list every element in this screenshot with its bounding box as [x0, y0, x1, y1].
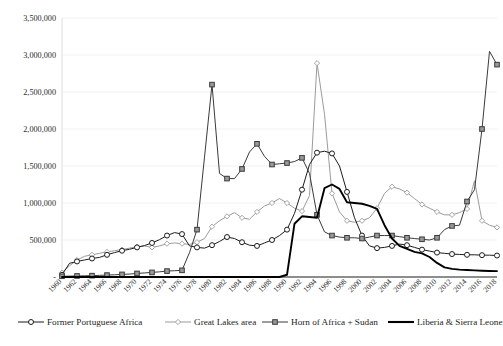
data-point-marker: [135, 271, 140, 276]
gridlines-group: [62, 18, 497, 240]
series-line: [62, 63, 497, 272]
x-tick-label: 1976: [166, 277, 183, 294]
legend-item-great-lakes-area[interactable]: Great Lakes area: [165, 317, 256, 327]
y-tick-label: 3,000,000: [23, 51, 56, 60]
data-point-marker: [270, 238, 275, 243]
data-point-marker: [329, 191, 334, 196]
x-tick-label: 1980: [196, 277, 213, 294]
data-point-marker: [240, 167, 245, 172]
data-point-marker: [465, 252, 470, 257]
data-point-marker: [255, 142, 260, 147]
data-point-marker: [495, 253, 500, 258]
x-tick-label: 1972: [136, 277, 153, 294]
series-great-lakes-area: [59, 61, 499, 276]
data-point-marker: [450, 252, 455, 257]
legend: Former Portuguese AfricaGreat Lakes area…: [18, 317, 502, 327]
data-point-marker: [315, 150, 320, 155]
x-tick-label: 1974: [151, 277, 168, 294]
series-line: [62, 151, 497, 275]
data-point-marker: [120, 248, 125, 253]
x-tick-label: 1966: [91, 277, 108, 294]
data-point-marker: [405, 235, 410, 240]
x-tick-label: 2000: [346, 277, 363, 294]
data-point-marker: [465, 199, 470, 204]
x-tick-label: 1996: [316, 277, 333, 294]
data-point-marker: [375, 246, 380, 251]
data-point-marker: [210, 82, 215, 87]
legend-label: Liberia & Sierra Leone: [417, 317, 502, 327]
legend-item-horn-of-africa-sudan[interactable]: Horn of Africa + Sudan: [262, 317, 378, 327]
data-point-marker: [105, 252, 110, 257]
data-point-marker: [285, 161, 290, 166]
y-tick-label: 1,500,000: [23, 162, 56, 171]
x-tick-label: 1982: [211, 277, 228, 294]
chart-container: 3,500,0003,000,0002,500,0002,000,0001,50…: [0, 0, 503, 346]
data-point-marker: [405, 243, 410, 248]
data-point-marker: [299, 209, 304, 214]
data-point-marker: [150, 270, 155, 275]
y-tick-label: 2,500,000: [23, 88, 56, 97]
x-tick-label: 2016: [466, 277, 483, 294]
x-tick-label: 2002: [361, 277, 378, 294]
y-tick-label: 3,500,000: [23, 14, 56, 23]
data-point-marker: [224, 214, 229, 219]
x-tick-label: 2012: [436, 277, 453, 294]
series-lines-group: [59, 51, 499, 278]
x-tick-label: 1992: [286, 277, 303, 294]
series-horn-of-africa-sudan: [60, 51, 500, 278]
legend-item-former-portuguese-africa[interactable]: Former Portuguese Africa: [18, 317, 142, 327]
data-point-marker: [479, 218, 484, 223]
legend-label: Great Lakes area: [194, 317, 256, 327]
data-point-marker: [165, 269, 170, 274]
series-line: [62, 51, 497, 276]
x-tick-label: 1984: [226, 277, 243, 294]
legend-item-liberia-sierra-leone[interactable]: Liberia & Sierra Leone: [388, 317, 502, 327]
x-tick-label: 2018: [481, 277, 498, 294]
y-axis-tick-labels: 3,500,0003,000,0002,500,0002,000,0001,50…: [23, 14, 56, 282]
y-tick-label: 1,000,000: [23, 199, 56, 208]
data-point-marker: [150, 240, 155, 245]
data-point-marker: [494, 225, 499, 230]
x-tick-label: 2006: [391, 277, 408, 294]
legend-label: Horn of Africa + Sudan: [291, 317, 378, 327]
data-point-marker: [179, 241, 184, 246]
x-tick-label: 1960: [46, 277, 63, 294]
data-point-marker: [300, 156, 305, 161]
data-point-marker: [420, 237, 425, 242]
data-point-marker: [180, 268, 185, 273]
data-point-marker: [195, 245, 200, 250]
x-tick-label: 2014: [451, 277, 468, 294]
x-tick-label: 1964: [76, 277, 93, 294]
data-point-marker: [330, 233, 335, 238]
data-point-marker: [375, 233, 380, 238]
data-point-marker: [164, 241, 169, 246]
x-tick-label: 2010: [421, 277, 438, 294]
data-point-marker: [360, 236, 365, 241]
data-point-marker: [135, 245, 140, 250]
data-point-marker: [314, 61, 319, 66]
data-point-marker: [359, 218, 364, 223]
data-point-marker: [29, 320, 34, 325]
x-tick-label: 1968: [106, 277, 123, 294]
x-tick-label: 1988: [256, 277, 273, 294]
data-point-marker: [270, 162, 275, 167]
data-point-marker: [390, 243, 395, 248]
data-point-marker: [180, 232, 185, 237]
data-point-marker: [90, 256, 95, 261]
x-axis-tick-labels: 1960196219641966196819701972197419761978…: [46, 277, 498, 294]
x-tick-label: 1962: [61, 277, 78, 294]
data-point-marker: [273, 320, 278, 325]
data-point-marker: [285, 227, 290, 232]
data-point-marker: [195, 227, 200, 232]
data-point-marker: [225, 176, 230, 181]
data-point-marker: [300, 187, 305, 192]
data-point-marker: [255, 243, 260, 248]
data-point-marker: [345, 189, 350, 194]
x-tick-label: 1994: [301, 277, 318, 294]
data-point-marker: [120, 272, 125, 277]
x-tick-label: 2004: [376, 277, 393, 294]
y-tick-label: 2,000,000: [23, 125, 56, 134]
data-point-marker: [480, 253, 485, 258]
data-point-marker: [435, 250, 440, 255]
data-point-marker: [210, 243, 215, 248]
